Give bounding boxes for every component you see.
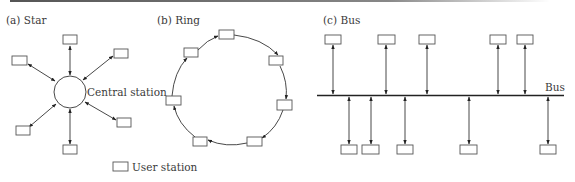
user-station [193, 137, 207, 146]
legend-label: User station [132, 161, 198, 173]
user-station [419, 35, 435, 44]
legend-user-station-icon [113, 162, 128, 171]
panel-label-ring: (b) Ring [157, 14, 200, 26]
ring-topology [166, 30, 292, 146]
user-station [166, 96, 181, 105]
user-station [219, 30, 234, 39]
user-station [63, 145, 77, 154]
panel-label-bus: (c) Bus [323, 14, 360, 26]
user-station [184, 48, 198, 57]
legend: User station [113, 161, 198, 173]
bus-label: Bus [545, 81, 565, 93]
central-station-label: Central station [87, 86, 167, 98]
user-station [325, 35, 341, 44]
star-topology: Central station [12, 35, 167, 154]
user-station [12, 56, 27, 65]
user-station [114, 49, 128, 58]
network-topology-diagram: (a) Star (b) Ring (c) Bus Central statio… [0, 0, 575, 182]
bus-topology: Bus [317, 35, 565, 154]
user-station [341, 145, 357, 154]
user-station [247, 137, 262, 146]
top-rule [10, 0, 550, 2]
central-station-node [54, 76, 86, 108]
user-station [517, 35, 533, 44]
user-station [397, 145, 413, 154]
user-station [63, 35, 77, 44]
user-station [269, 56, 283, 65]
user-station [378, 35, 395, 44]
user-station [490, 35, 506, 44]
user-station [16, 126, 30, 135]
user-station [117, 118, 131, 127]
user-station [540, 145, 556, 154]
panel-label-star: (a) Star [6, 14, 47, 26]
user-station [460, 145, 477, 154]
user-station [362, 145, 379, 154]
user-station [277, 100, 292, 110]
